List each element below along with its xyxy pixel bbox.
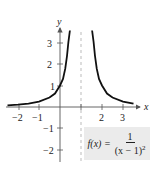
formula-fraction: 1 (x − 1)2 bbox=[114, 131, 147, 156]
y-tick-label: −1 bbox=[43, 123, 54, 134]
x-tick-label: 2 bbox=[99, 112, 104, 123]
y-tick-label: −2 bbox=[43, 145, 54, 156]
x-tick-label: 3 bbox=[120, 112, 125, 123]
formula-exponent: 2 bbox=[142, 144, 146, 152]
denominator-base: (x − 1) bbox=[115, 145, 142, 156]
y-axis-label: y bbox=[56, 16, 62, 27]
y-tick-label: 3 bbox=[47, 38, 52, 49]
formula-denominator: (x − 1)2 bbox=[114, 143, 147, 156]
curve-left-branch bbox=[8, 31, 70, 106]
x-tick-label: −1 bbox=[32, 112, 43, 123]
function-label: f(x) = 1 (x − 1)2 bbox=[84, 127, 150, 160]
curve-right-branch bbox=[92, 31, 133, 104]
x-axis-label: x bbox=[143, 101, 149, 112]
y-tick-label: 2 bbox=[47, 59, 52, 70]
y-tick-label: 1 bbox=[50, 81, 55, 92]
x-tick-label: −2 bbox=[12, 112, 23, 123]
formula-lhs: f(x) = bbox=[88, 138, 111, 149]
formula-numerator: 1 bbox=[126, 131, 135, 143]
